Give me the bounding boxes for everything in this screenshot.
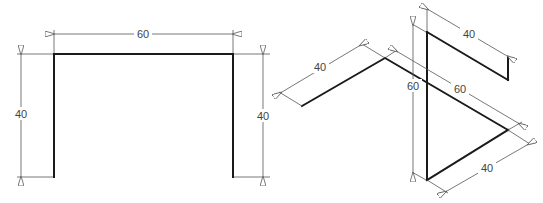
extension-line — [427, 180, 448, 193]
dim-label-left-arm: 40 — [314, 61, 326, 73]
front-view: 60 40 40 — [12, 27, 272, 177]
dim-label-right-height: 40 — [257, 110, 269, 122]
u-shape-outline — [54, 54, 233, 177]
extension-line — [279, 92, 302, 106]
extension-line — [508, 122, 522, 130]
dim-label-upper-arm: 40 — [463, 28, 475, 40]
extension-line — [508, 130, 530, 144]
extension-line — [412, 172, 426, 180]
dim-label-top-width: 60 — [137, 28, 149, 40]
dim-label-vertical: 60 — [407, 80, 419, 92]
dim-label-left-height: 40 — [15, 108, 27, 120]
drawing-canvas: 60 40 40 40 40 — [0, 0, 543, 203]
extension-line — [412, 24, 426, 32]
dim-label-bottom-arm: 40 — [481, 162, 493, 174]
extension-line — [362, 44, 385, 58]
dim-label-long-diagonal: 60 — [454, 83, 466, 95]
extension-line — [385, 50, 397, 58]
isometric-view: 40 40 60 60 40 — [279, 8, 530, 193]
